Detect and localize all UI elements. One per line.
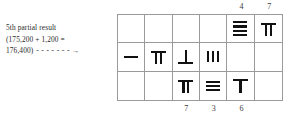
grid-cell-r2c6[interactable] (255, 43, 282, 71)
arrow-head-icon: → (72, 46, 80, 55)
annotation-line-2: (175,200 + 1,200 = (6, 34, 114, 46)
rod-stroke (187, 82, 189, 93)
grid-cell-r1c6[interactable] (255, 15, 282, 43)
grid-cell-r1c4[interactable] (200, 15, 227, 43)
bottom-digit-label-col3: 7 (179, 104, 193, 113)
rod-numeral-7 (147, 46, 169, 68)
top-digit-label-col6: 7 (262, 2, 276, 11)
rod-numeral-3 (202, 46, 224, 68)
grid-cell-r3c3[interactable] (173, 72, 200, 100)
grid-cell-r3c2[interactable] (145, 72, 172, 100)
grid-cell-r2c1[interactable] (118, 43, 145, 71)
bottom-digit-label-col4: 3 (207, 104, 221, 113)
rod-unit-strokes (257, 25, 279, 36)
rod-unit-strokes (202, 51, 224, 62)
rod-numeral-7 (175, 75, 197, 97)
grid-cell-r1c5[interactable] (227, 15, 254, 43)
top-digit-label-col5: 4 (235, 2, 249, 11)
grid-cell-r2c4[interactable] (200, 43, 227, 71)
rod-numeral-1 (120, 46, 142, 68)
rod-unit-strokes (175, 82, 197, 93)
rod-stroke (185, 50, 187, 62)
partial-result-annotation: 5th partial result (175,200 + 1,200 = 17… (6, 22, 114, 57)
rod-stroke (270, 25, 272, 36)
rod-unit-strokes (120, 56, 142, 58)
rod-unit-strokes (202, 81, 224, 92)
grid-cell-r1c1[interactable] (118, 15, 145, 43)
dashed-arrow-shaft: - - - - - - - (36, 45, 70, 57)
counting-board-grid (117, 14, 283, 101)
rod-stroke (206, 89, 220, 91)
rod-five-bar (178, 62, 193, 64)
rod-stroke (160, 53, 162, 64)
rod-stroke (182, 82, 184, 93)
rod-unit-strokes (229, 21, 251, 36)
annotation-line-3: 176,400) - - - - - - - → (6, 45, 114, 57)
rod-stroke (265, 25, 267, 36)
rod-five-bar (233, 79, 248, 81)
rod-stroke (233, 34, 247, 36)
grid-cell-r2c5[interactable] (227, 43, 254, 71)
grid-cell-r3c6[interactable] (255, 72, 282, 100)
annotation-line-1: 5th partial result (6, 22, 114, 34)
rod-numeral-3 (202, 75, 224, 97)
rod-numeral-7 (257, 18, 279, 40)
rod-stroke (233, 21, 247, 23)
rod-numeral-6 (175, 46, 197, 68)
rod-stroke (155, 53, 157, 64)
rod-stroke (212, 51, 214, 62)
rod-stroke (233, 25, 247, 27)
rod-stroke (206, 81, 220, 83)
rod-numeral-4 (229, 18, 251, 40)
rod-stroke (124, 56, 138, 58)
grid-cell-r3c1[interactable] (118, 72, 145, 100)
rod-unit-strokes (147, 53, 169, 64)
grid-cell-r2c3[interactable] (173, 43, 200, 71)
rod-stroke (207, 51, 209, 62)
rod-stroke (217, 51, 219, 62)
annotation-line-3-text: 176,400) (6, 46, 33, 55)
grid-cell-r1c3[interactable] (173, 15, 200, 43)
grid-cell-r1c2[interactable] (145, 15, 172, 43)
rod-stroke (206, 85, 220, 87)
grid-cell-r3c5[interactable] (227, 72, 254, 100)
bottom-digit-label-col5: 6 (235, 104, 249, 113)
rod-numeral-6 (229, 75, 251, 97)
grid-cell-r3c4[interactable] (200, 72, 227, 100)
rod-stroke (233, 30, 247, 32)
counting-rod-multiplication-figure: 5th partial result (175,200 + 1,200 = 17… (0, 0, 288, 120)
rod-stroke (239, 81, 241, 93)
grid-cell-r2c2[interactable] (145, 43, 172, 71)
